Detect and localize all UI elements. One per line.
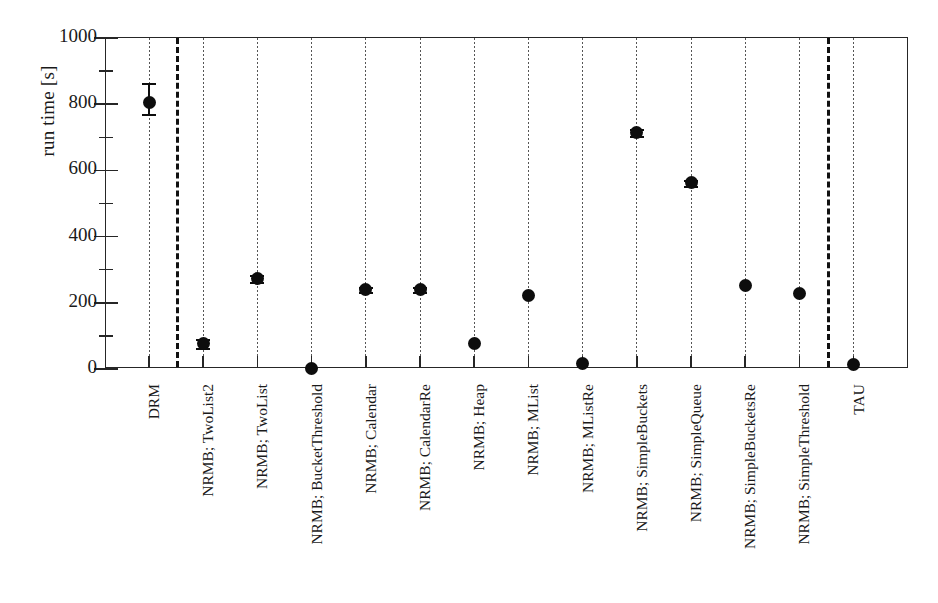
error-bar-cap-bottom xyxy=(142,114,156,116)
y-tick-mark xyxy=(106,203,113,205)
x-tick-label: NRMB; TwoList xyxy=(253,384,271,489)
category-guideline xyxy=(528,38,529,367)
y-tick-mark xyxy=(106,302,118,304)
x-tick-mark xyxy=(744,356,746,367)
x-tick-label: NRMB; CalendarRe xyxy=(416,384,434,511)
x-tick-label: NRMB; Heap xyxy=(470,384,488,471)
marker-dot xyxy=(305,362,318,375)
x-tick-mark xyxy=(365,356,367,367)
x-tick-label: NRMB; SimpleBucketsRe xyxy=(741,384,759,549)
y-tick-mark xyxy=(106,335,113,337)
y-tick-label: 0 xyxy=(88,356,98,378)
x-tick-mark xyxy=(799,356,801,367)
marker-dot xyxy=(522,289,535,302)
category-guideline xyxy=(853,38,854,367)
x-tick-label: NRMB; MList xyxy=(524,384,542,476)
category-guideline xyxy=(203,38,204,367)
category-guideline xyxy=(691,38,692,367)
y-tick-label: 600 xyxy=(69,157,98,179)
y-tick-mark-right xyxy=(99,203,106,205)
y-tick-mark xyxy=(106,170,118,172)
marker-dot xyxy=(468,337,481,350)
x-tick-mark xyxy=(473,356,475,367)
group-separator xyxy=(176,38,179,367)
x-tick-mark xyxy=(636,356,638,367)
category-guideline xyxy=(474,38,475,367)
y-tick-mark xyxy=(106,103,118,105)
y-tick-mark xyxy=(106,70,113,72)
marker-dot xyxy=(197,337,210,350)
y-tick-mark-right xyxy=(99,335,106,337)
marker-dot xyxy=(793,287,806,300)
y-tick-mark-right xyxy=(99,70,106,72)
x-tick-label: NRMB; TwoList2 xyxy=(199,384,217,497)
y-tick-mark-right xyxy=(99,137,106,139)
error-bar-cap-top xyxy=(142,83,156,85)
y-tick-mark xyxy=(106,269,113,271)
y-tick-label: 200 xyxy=(69,290,98,312)
marker-dot xyxy=(576,357,589,370)
x-tick-label: NRMB; SimpleQueue xyxy=(687,384,705,522)
x-tick-label: NRMB; Calendar xyxy=(362,384,380,494)
x-tick-mark xyxy=(690,356,692,367)
y-tick-label: 1000 xyxy=(59,25,97,47)
x-tick-mark xyxy=(257,356,259,367)
category-guideline xyxy=(745,38,746,367)
marker-dot xyxy=(685,176,698,189)
y-tick-mark xyxy=(106,236,118,238)
category-guideline xyxy=(636,38,637,367)
category-guideline xyxy=(257,38,258,367)
x-tick-label: NRMB; MListRe xyxy=(579,384,597,493)
x-tick-label: DRM xyxy=(145,384,163,419)
category-guideline xyxy=(365,38,366,367)
category-guideline xyxy=(582,38,583,367)
chart-figure: run time [s] 02004006008001000 DRMNRMB; … xyxy=(0,0,938,603)
x-tick-label: NRMB; SimpleBuckets xyxy=(633,384,651,532)
y-tick-mark xyxy=(106,37,118,39)
marker-dot xyxy=(414,283,427,296)
x-tick-mark xyxy=(528,356,530,367)
x-tick-label: NRMB; SimpleThreshold xyxy=(795,384,813,545)
marker-dot xyxy=(739,279,752,292)
category-guideline xyxy=(799,38,800,367)
y-tick-label: 800 xyxy=(69,91,98,113)
y-tick-label: 400 xyxy=(69,224,98,246)
category-guideline xyxy=(311,38,312,367)
group-separator xyxy=(827,38,830,367)
x-tick-mark xyxy=(419,356,421,367)
y-axis-title: run time [s] xyxy=(37,1,59,221)
y-tick-mark xyxy=(106,137,113,139)
plot-area: 02004006008001000 xyxy=(105,37,908,368)
x-tick-mark xyxy=(202,356,204,367)
category-guideline xyxy=(420,38,421,367)
x-tick-mark xyxy=(148,356,150,367)
marker-dot xyxy=(847,358,860,371)
marker-dot xyxy=(251,272,264,285)
x-tick-label: TAU xyxy=(850,384,868,415)
y-tick-mark-right xyxy=(99,269,106,271)
y-tick-mark xyxy=(106,368,118,370)
marker-dot xyxy=(143,96,156,109)
x-tick-label: NRMB; BucketThreshold xyxy=(308,384,326,545)
